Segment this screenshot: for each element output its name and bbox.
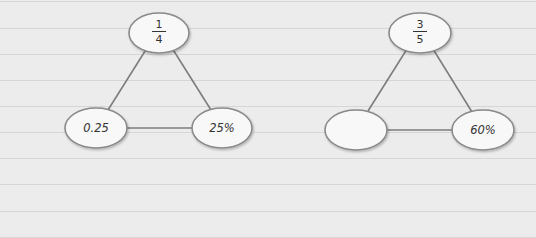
node-percent: 25% [192,108,252,148]
diagram-canvas: 1 4 0.25 25% 3 5 60% [0,0,536,183]
node-percent: 60% [452,110,514,150]
edge-right [433,49,472,112]
percent-label: 60% [470,123,496,137]
edge-left [368,49,407,111]
decimal-label: 0.25 [83,121,109,135]
fraction-numerator: 3 [417,18,424,31]
triangle-three-fifths: 3 5 60% [325,13,514,150]
node-fraction: 1 4 [129,13,189,53]
node-decimal-blank [325,110,387,150]
triangle-one-quarter: 1 4 0.25 25% [65,13,252,148]
node-decimal: 0.25 [65,108,127,148]
edge-right [172,48,211,110]
fraction-numerator: 1 [156,18,163,31]
percent-label: 25% [209,121,235,135]
fraction-denominator: 5 [417,33,424,46]
node-fraction: 3 5 [389,13,451,53]
edge-left [108,48,147,110]
fraction-denominator: 4 [156,33,163,46]
